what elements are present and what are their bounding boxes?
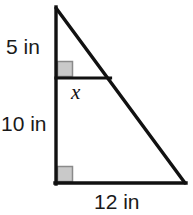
geometry-figure: 5 in 10 in 12 in x xyxy=(0,0,193,215)
right-angle-marker-lower xyxy=(58,167,73,182)
label-unknown-x: x xyxy=(71,82,80,103)
label-upper-left-leg: 5 in xyxy=(6,36,40,57)
label-lower-left-leg: 10 in xyxy=(1,113,47,134)
right-angle-marker-upper xyxy=(58,62,73,77)
label-base: 12 in xyxy=(94,191,140,212)
triangle-diagram-svg xyxy=(0,0,193,215)
